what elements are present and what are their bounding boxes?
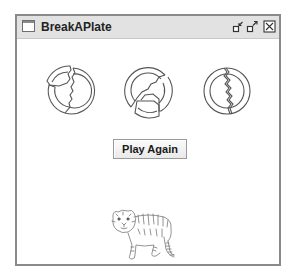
iconify-icon: [232, 20, 245, 33]
tiger-prize: [108, 207, 180, 263]
close-button[interactable]: [263, 20, 276, 33]
app-window: BreakAPlate: [15, 14, 281, 266]
maximize-icon: [246, 20, 259, 33]
game-panel: Play Again: [17, 39, 279, 264]
broken-plate-icon: [121, 63, 177, 119]
broken-plate-icon: [43, 63, 99, 119]
maximize-button[interactable]: [246, 20, 259, 33]
title-bar[interactable]: BreakAPlate: [17, 16, 279, 39]
cracked-plate-icon: [199, 63, 255, 119]
iconify-button[interactable]: [232, 20, 245, 33]
window-title: BreakAPlate: [41, 19, 116, 35]
tiger-icon: [108, 207, 180, 263]
play-again-button[interactable]: Play Again: [113, 139, 187, 159]
plate-2[interactable]: [121, 63, 177, 119]
plate-3[interactable]: [199, 63, 255, 119]
close-icon: [263, 20, 276, 33]
window-icon[interactable]: [22, 20, 35, 32]
plate-1[interactable]: [43, 63, 99, 119]
